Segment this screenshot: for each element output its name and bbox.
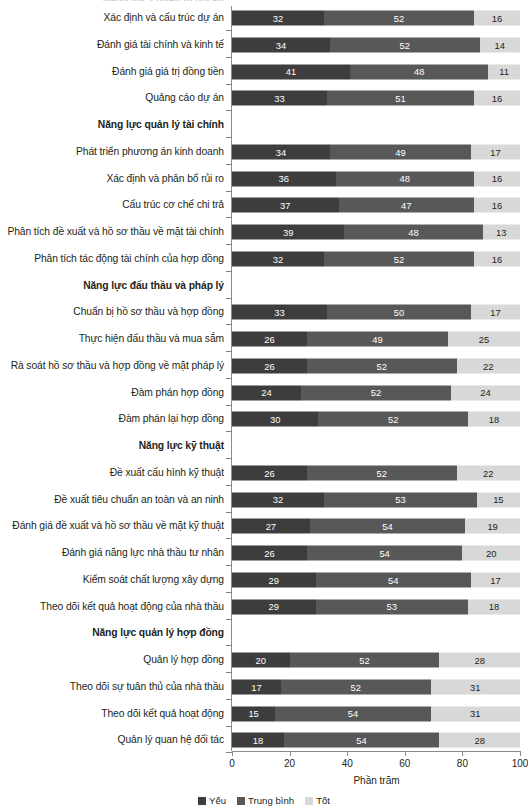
chart-bar-row: Thực hiện đấu thầu và mua sắm264925: [0, 328, 528, 350]
bar-segment-yếu: 34: [232, 144, 330, 159]
chart-bar-row: Phân tích tác động tài chính của hợp đồn…: [0, 248, 528, 270]
category-tick: [226, 298, 232, 299]
category-tick: [226, 217, 232, 218]
bar-segment-trung-bình: 52: [290, 653, 440, 668]
bar-segment-trung-bình: 54: [275, 706, 431, 721]
chart-group-header-row: Năng lực đấu thầu và pháp lý: [0, 275, 528, 297]
bar-segment-tốt: 31: [431, 679, 520, 694]
stacked-bar: 205228: [232, 653, 520, 668]
stacked-bar: 264925: [232, 332, 520, 347]
bar-segment-trung-bình: 54: [307, 546, 463, 561]
bar-segment-yếu: 27: [232, 519, 310, 534]
bar-segment-tốt: 14: [480, 37, 520, 52]
bar-segment-trung-bình: 47: [339, 198, 474, 213]
category-label: Đàm phán hợp đồng: [0, 387, 228, 399]
x-axis-tick: [347, 751, 348, 756]
x-axis-tick-label: 60: [399, 758, 410, 769]
category-tick: [226, 699, 232, 700]
category-label: Phân tích đề xuất và hồ sơ thầu về mặt t…: [0, 226, 228, 238]
bar-segment-yếu: 26: [232, 332, 307, 347]
bar-segment-yếu: 29: [232, 572, 316, 587]
stacked-bar: 335017: [232, 305, 520, 320]
chart-group-header-row: Năng lực quản lý tài chính: [0, 114, 528, 136]
chart-bar-row: Theo dõi kết quả hoạt động của nhà thầu2…: [0, 596, 528, 618]
category-label: Quản lý hợp đồng: [0, 654, 228, 666]
group-header-label: Năng lực đấu thầu và pháp lý: [0, 280, 228, 292]
category-tick: [226, 565, 232, 566]
bar-segment-trung-bình: 49: [307, 332, 448, 347]
chart-bar-row: Theo dõi kết quả hoạt động155431: [0, 703, 528, 725]
legend-item: Trung bình: [237, 795, 294, 806]
bar-segment-yếu: 37: [232, 198, 339, 213]
category-label: Phát triển phương án kinh doanh: [0, 146, 228, 158]
bar-segment-tốt: 13: [483, 225, 520, 240]
chart-group-header-row: Năng lực kỹ thuật: [0, 435, 528, 457]
bar-segment-yếu: 36: [232, 171, 336, 186]
chart-bar-row: Phân tích đề xuất và hồ sơ thầu về mặt t…: [0, 221, 528, 243]
stacked-bar: 325315: [232, 492, 520, 507]
chart-bar-row: Đề xuất tiêu chuẩn an toàn và an ninh325…: [0, 489, 528, 511]
bar-segment-tốt: 28: [439, 733, 520, 748]
chart-legend: YếuTrung bìnhTốt: [0, 795, 528, 806]
clipped-group-header: Năng lực chuẩn bị dự án: [0, 0, 228, 1]
chart-bar-row: Quảng cáo dự án335116: [0, 87, 528, 109]
bar-segment-tốt: 20: [462, 546, 520, 561]
legend-swatch-icon: [305, 797, 313, 805]
stacked-bar: 185428: [232, 733, 520, 748]
chart-bar-row: Quản lý hợp đồng205228: [0, 649, 528, 671]
stacked-bar: 374716: [232, 198, 520, 213]
category-tick: [226, 164, 232, 165]
bar-segment-tốt: 17: [471, 144, 520, 159]
x-axis-tick-label: 0: [229, 758, 235, 769]
category-tick: [226, 458, 232, 459]
stacked-bar: 245224: [232, 385, 520, 400]
stacked-bar: 275419: [232, 519, 520, 534]
chart-bar-row: Đàm phán lại hợp đồng305218: [0, 408, 528, 430]
stacked-bar: 345214: [232, 37, 520, 52]
bar-segment-trung-bình: 50: [327, 305, 471, 320]
stacked-bar: 155431: [232, 706, 520, 721]
group-header-label: Năng lực kỹ thuật: [0, 440, 228, 452]
bar-segment-trung-bình: 51: [327, 91, 474, 106]
bar-segment-yếu: 33: [232, 91, 327, 106]
category-label: Đánh giá tài chính và kinh tế: [0, 39, 228, 51]
chart-bar-row: Xác định và cấu trúc dự án325216: [0, 7, 528, 29]
category-label: Rà soát hồ sơ thầu và hợp đồng về mặt ph…: [0, 360, 228, 372]
category-label: Đánh giá giá trị đồng tiền: [0, 66, 228, 78]
stacked-bar: 414811: [232, 64, 520, 79]
stacked-bar: 265222: [232, 465, 520, 480]
group-header-label: Năng lực quản lý hợp đồng: [0, 627, 228, 639]
chart-bar-row: Chuẩn bị hồ sơ thầu và hợp đồng335017: [0, 301, 528, 323]
bar-segment-yếu: 15: [232, 706, 275, 721]
chart-bar-row: Đề xuất cấu hình kỹ thuật265222: [0, 462, 528, 484]
chart-bar-row: Theo dõi sự tuân thủ của nhà thầu175231: [0, 676, 528, 698]
category-tick: [226, 645, 232, 646]
bar-segment-tốt: 16: [474, 171, 520, 186]
bar-segment-trung-bình: 52: [307, 358, 457, 373]
stacked-bar: 335116: [232, 91, 520, 106]
chart-bar-row: Kiểm soát chất lượng xây dựng295417: [0, 569, 528, 591]
bar-segment-tốt: 22: [457, 465, 520, 480]
stacked-bar: 344917: [232, 144, 520, 159]
group-header-label: Năng lực quản lý tài chính: [0, 119, 228, 131]
bar-segment-yếu: 33: [232, 305, 327, 320]
stacked-bar: 364816: [232, 171, 520, 186]
category-label: Đàm phán lại hợp đồng: [0, 413, 228, 425]
chart-group-header-row: Năng lực quản lý hợp đồng: [0, 622, 528, 644]
legend-item: Tốt: [305, 795, 330, 806]
bar-segment-trung-bình: 52: [324, 251, 474, 266]
x-axis-line: [232, 751, 521, 752]
bar-segment-tốt: 16: [474, 198, 520, 213]
bar-segment-trung-bình: 54: [310, 519, 466, 534]
bar-segment-trung-bình: 49: [330, 144, 471, 159]
legend-label: Trung bình: [248, 795, 294, 806]
category-label: Chuẩn bị hồ sơ thầu và hợp đồng: [0, 306, 228, 318]
legend-item: Yếu: [198, 795, 226, 806]
bar-segment-tốt: 17: [471, 305, 520, 320]
legend-label: Tốt: [316, 795, 330, 806]
category-label: Kiểm soát chất lượng xây dựng: [0, 574, 228, 586]
chart-bar-row: Đàm phán hợp đồng245224: [0, 382, 528, 404]
bar-segment-yếu: 32: [232, 251, 324, 266]
chart-bar-row: Rà soát hồ sơ thầu và hợp đồng về mặt ph…: [0, 355, 528, 377]
bar-segment-trung-bình: 48: [344, 225, 482, 240]
